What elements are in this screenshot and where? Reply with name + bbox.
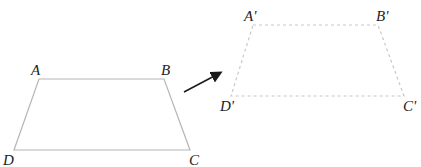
label-c: C xyxy=(189,153,199,167)
label-a-prime: A' xyxy=(244,9,256,24)
label-a: A xyxy=(31,63,40,78)
translation-arrow xyxy=(184,73,220,92)
trapezoid-a-prime-b-prime-c-prime-d-prime xyxy=(231,25,404,96)
translation-diagram xyxy=(0,0,421,167)
label-c-prime: C' xyxy=(403,99,416,114)
label-b: B xyxy=(161,63,170,78)
label-d: D xyxy=(3,153,14,167)
trapezoid-abcd xyxy=(14,79,190,150)
label-b-prime: B' xyxy=(376,9,388,24)
label-d-prime: D' xyxy=(220,99,234,114)
